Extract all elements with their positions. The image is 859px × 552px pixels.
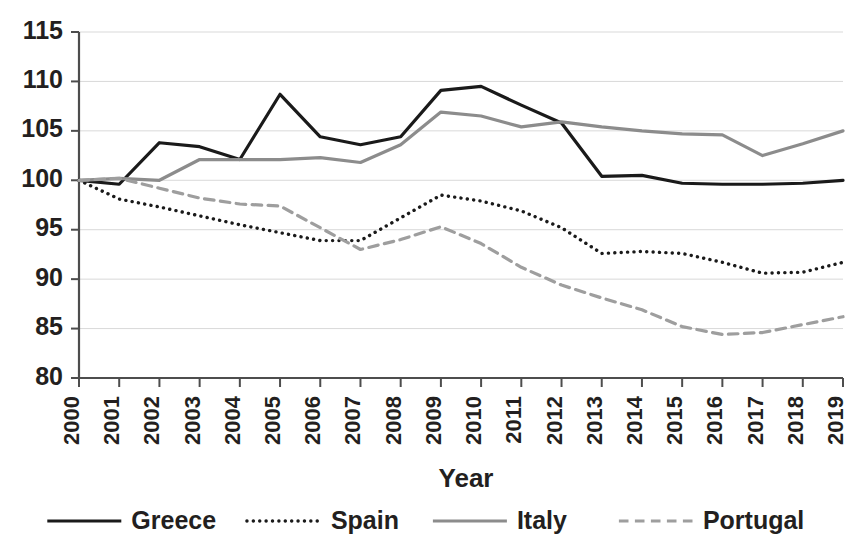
x-axis-tick-labels: 2000200120022003200420052006200720082009… [59,395,848,445]
x-tick-label: 2012 [542,396,567,445]
x-tick-label: 2000 [59,396,84,445]
series-line-greece [79,86,843,184]
x-tick-label: 2002 [139,396,164,445]
line-chart: 80859095100105110115 2000200120022003200… [0,0,859,552]
legend-item-spain[interactable]: Spain [247,506,399,534]
chart-legend: GreeceSpainItalyPortugal [47,506,804,534]
legend-label: Spain [331,506,399,534]
y-tick-label: 100 [21,164,63,192]
x-tick-label: 2007 [340,396,365,445]
gridlines [79,32,843,378]
legend-label: Portugal [703,506,804,534]
data-series [79,86,843,334]
x-tick-label: 2006 [300,396,325,445]
y-tick-label: 95 [35,213,63,241]
x-tick-label: 2014 [622,395,647,445]
x-tick-label: 2004 [220,395,245,445]
x-tick-label: 2009 [421,396,446,445]
x-tick-label: 2011 [501,396,526,444]
legend-label: Greece [131,506,216,534]
legend-item-portugal[interactable]: Portugal [619,506,804,534]
series-line-spain [79,180,843,273]
x-tick-label: 2019 [823,396,848,445]
x-tick-label: 2013 [582,396,607,445]
x-axis-title: Year [439,463,494,493]
y-tick-label: 80 [35,362,63,390]
x-tick-label: 2008 [381,396,406,445]
y-tick-label: 115 [23,16,63,44]
y-tick-label: 110 [23,65,63,93]
x-tick-label: 2016 [702,396,727,445]
legend-item-italy[interactable]: Italy [433,506,567,534]
x-tick-label: 2017 [743,396,768,445]
x-tick-label: 2015 [662,396,687,445]
series-line-portugal [79,178,843,334]
x-tick-label: 2001 [99,396,124,445]
x-tick-label: 2005 [260,396,285,445]
y-tick-label: 105 [21,114,63,142]
chart-canvas: 80859095100105110115 2000200120022003200… [0,0,859,552]
y-tick-label: 85 [35,312,63,340]
legend-label: Italy [517,506,567,534]
y-tick-label: 90 [35,263,63,291]
x-tick-label: 2003 [180,396,205,445]
x-tick-label: 2018 [783,396,808,445]
y-axis-tick-labels: 80859095100105110115 [21,16,63,390]
legend-item-greece[interactable]: Greece [47,506,216,534]
x-tick-label: 2010 [461,396,486,445]
